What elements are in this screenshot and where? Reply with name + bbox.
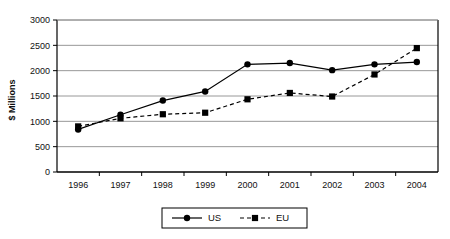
plot-area: 0500100015002000250030001996199719981999…: [0, 0, 450, 239]
x-tick-label: 2001: [280, 180, 300, 190]
x-tick-label: 2000: [237, 180, 257, 190]
y-tick-label: 1000: [30, 117, 50, 127]
legend-marker-eu: [252, 215, 258, 221]
data-point-eu: [202, 110, 208, 116]
x-tick-label: 1998: [153, 180, 173, 190]
data-point-us: [244, 61, 250, 67]
data-point-eu: [414, 45, 420, 51]
y-tick-label: 2500: [30, 41, 50, 51]
data-point-us: [160, 97, 166, 103]
data-point-us: [371, 61, 377, 67]
chart-svg: 0500100015002000250030001996199719981999…: [0, 0, 450, 239]
data-point-eu: [329, 93, 335, 99]
data-point-eu: [117, 115, 123, 121]
y-tick-label: 2000: [30, 66, 50, 76]
data-point-eu: [75, 123, 81, 129]
x-tick-label: 2004: [407, 180, 427, 190]
data-point-us: [287, 60, 293, 66]
x-tick-label: 1997: [110, 180, 130, 190]
data-point-eu: [244, 96, 250, 102]
y-tick-label: 0: [45, 167, 50, 177]
line-chart-figure: $ Millions 05001000150020002500300019961…: [0, 0, 450, 239]
x-tick-label: 1999: [195, 180, 215, 190]
data-point-us: [329, 67, 335, 73]
data-point-eu: [371, 71, 377, 77]
legend-label-us[interactable]: US: [208, 212, 221, 223]
y-tick-label: 500: [35, 142, 50, 152]
data-point-eu: [160, 111, 166, 117]
legend-marker-us: [184, 215, 190, 221]
data-point-eu: [287, 90, 293, 96]
data-point-us: [202, 88, 208, 94]
x-tick-label: 2003: [364, 180, 384, 190]
legend-label-eu[interactable]: EU: [276, 212, 289, 223]
x-tick-label: 1996: [68, 180, 88, 190]
y-tick-label: 3000: [30, 15, 50, 25]
y-tick-label: 1500: [30, 91, 50, 101]
x-tick-label: 2002: [322, 180, 342, 190]
data-point-us: [414, 59, 420, 65]
